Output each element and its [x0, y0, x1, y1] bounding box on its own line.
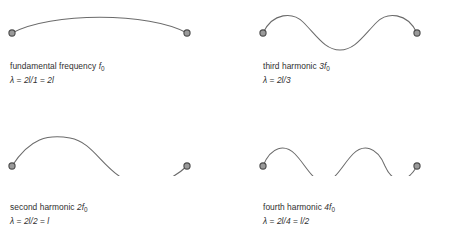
caption-second-harmonic: second harmonic 2f0 λ = 2l/2 = l [10, 201, 88, 228]
wavelength-expr-1: 2l/2 [24, 216, 38, 226]
node-marker-right [184, 163, 190, 169]
node-marker-right [184, 30, 190, 36]
caption-wavelength-line: λ = 2l/4 = l/2 [263, 215, 335, 229]
wavelength-expr-1: 2l/1 [24, 75, 38, 85]
caption-third-harmonic: third harmonic 3f0 λ = 2l/3 [263, 60, 330, 87]
wave-graphic-fundamental [0, 0, 225, 60]
wavelength-expr-2: l/2 [300, 216, 309, 226]
frequency-subscript: 0 [326, 65, 330, 72]
wavelength-expr-2: 2l [47, 75, 54, 85]
node-marker-right [414, 30, 420, 36]
frequency-subscript: 0 [84, 206, 88, 213]
lambda-symbol: λ [263, 75, 267, 85]
frequency-subscript: 0 [331, 206, 335, 213]
caption-fundamental: fundamental frequency f0 λ = 2l/1 = 2l [10, 60, 105, 87]
caption-name-line: third harmonic 3f0 [263, 60, 330, 74]
panel-fundamental: fundamental frequency f0 λ = 2l/1 = 2l [0, 0, 225, 115]
harmonic-name: fundamental frequency [10, 61, 96, 71]
caption-wavelength-line: λ = 2l/2 = l [10, 215, 88, 229]
caption-name-line: second harmonic 2f0 [10, 201, 88, 215]
wave-curve [12, 137, 187, 176]
lambda-symbol: λ [263, 216, 267, 226]
caption-wavelength-line: λ = 2l/1 = 2l [10, 74, 105, 88]
panel-fourth-harmonic: fourth harmonic 4f0 λ = 2l/4 = l/2 [225, 116, 450, 231]
node-marker-right [414, 163, 420, 169]
wave-graphic-fourth-harmonic [225, 116, 450, 176]
wavelength-expr-1: 2l/3 [277, 75, 291, 85]
harmonic-name: third harmonic [263, 61, 317, 71]
lambda-symbol: λ [10, 75, 14, 85]
wavelength-expr-1: 2l/4 [277, 216, 291, 226]
caption-fourth-harmonic: fourth harmonic 4f0 λ = 2l/4 = l/2 [263, 201, 335, 228]
caption-wavelength-line: λ = 2l/3 [263, 74, 330, 88]
harmonic-name: second harmonic [10, 202, 75, 212]
frequency-subscript: 0 [101, 65, 105, 72]
caption-name-line: fourth harmonic 4f0 [263, 201, 335, 215]
node-marker-left [260, 30, 266, 36]
wavelength-expr-2: l [47, 216, 49, 226]
harmonic-name: fourth harmonic [263, 202, 322, 212]
wave-graphic-third-harmonic [225, 0, 450, 60]
node-marker-left [9, 30, 15, 36]
node-marker-left [260, 163, 266, 169]
wave-graphic-second-harmonic [0, 116, 225, 176]
wave-curve [263, 148, 417, 176]
panel-second-harmonic: second harmonic 2f0 λ = 2l/2 = l [0, 116, 225, 231]
node-marker-left [9, 163, 15, 169]
diagram-canvas: fundamental frequency f0 λ = 2l/1 = 2l t… [0, 0, 450, 231]
caption-name-line: fundamental frequency f0 [10, 60, 105, 74]
lambda-symbol: λ [10, 216, 14, 226]
frequency-symbol: 2f [77, 202, 84, 212]
wave-curve [12, 17, 187, 33]
wave-curve [263, 16, 417, 50]
panel-third-harmonic: third harmonic 3f0 λ = 2l/3 [225, 0, 450, 115]
